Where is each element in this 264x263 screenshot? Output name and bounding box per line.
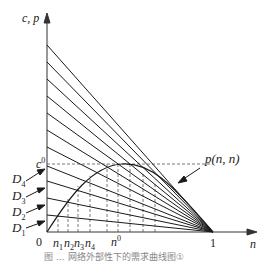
axes: [44, 13, 257, 235]
d4-base: D: [12, 171, 21, 186]
d3-arrow-icon: [37, 188, 45, 193]
n0-label: n0: [111, 235, 121, 248]
d2-arrow-icon: [37, 205, 45, 210]
d1-arrow-icon: [37, 221, 45, 226]
d3-base: D: [12, 188, 21, 203]
x-axis-label: n: [250, 238, 256, 250]
d1-label: D1: [12, 221, 25, 238]
d4-label: D4: [12, 172, 25, 189]
curve-pointer-arrow-icon: [178, 168, 200, 183]
y-axis-arrow-icon: [44, 13, 50, 23]
x-end-label: 1: [210, 237, 216, 249]
c0-sup: 0: [41, 156, 45, 165]
curve-label: p(n, n): [205, 152, 240, 165]
x-axis-arrow-icon: [247, 229, 257, 235]
d1-base: D: [12, 220, 21, 235]
n0-sup: 0: [117, 234, 121, 243]
origin-label: 0: [36, 236, 42, 248]
d-label-arrows: [26, 169, 45, 228]
d2-base: D: [12, 204, 21, 219]
dashed-verticals: [58, 164, 155, 232]
d4-sub: 4: [21, 180, 25, 189]
figure-caption: 图 … 网络外部性下的需求曲线图①: [44, 250, 184, 263]
c0-label: c0: [36, 157, 45, 170]
y-axis-label: c, p: [22, 12, 39, 24]
d1-sub: 1: [21, 229, 25, 238]
